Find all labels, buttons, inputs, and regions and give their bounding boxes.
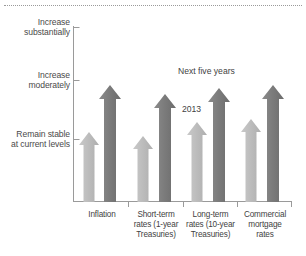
series-label-next-five-years: Next five years xyxy=(178,66,235,76)
y-label-increase-moderately: Increase moderately xyxy=(0,70,70,90)
category-label-short-term: Short-term rates (1-year Treasuries) xyxy=(128,210,184,240)
y-label-increase-substantially: Increase substantially xyxy=(0,17,70,37)
y-label-remain-stable: Remain stable at current levels xyxy=(0,129,70,149)
bar-arrow-commercial-next-five xyxy=(262,85,284,202)
bar-arrow-longterm-2013 xyxy=(187,122,207,202)
category-label-commercial: Commercial mortgage rates xyxy=(237,210,293,240)
bar-arrow-shortterm-2013 xyxy=(133,136,153,202)
bar-arrow-inflation-2013 xyxy=(79,132,99,202)
category-label-inflation: Inflation xyxy=(74,210,130,220)
category-label-long-term: Long-term rates (10-year Treasuries) xyxy=(182,210,239,240)
bar-arrow-commercial-2013 xyxy=(241,119,261,202)
bar-arrow-shortterm-next-five xyxy=(154,94,176,202)
chart-container: Increase substantially Increase moderate… xyxy=(0,0,306,256)
series-label-2013: 2013 xyxy=(182,104,201,114)
bar-arrow-longterm-next-five xyxy=(208,88,230,202)
bar-arrow-inflation-next-five xyxy=(99,85,121,202)
